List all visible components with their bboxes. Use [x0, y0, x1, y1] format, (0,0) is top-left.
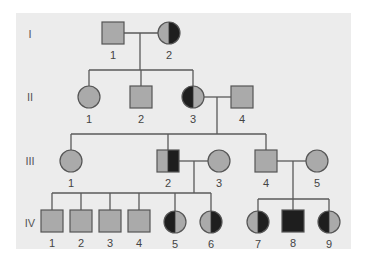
female-circle-symbol: [305, 149, 329, 173]
individual-number: 1: [49, 237, 55, 249]
individual-ii-3: 3: [181, 85, 205, 125]
individual-number: 6: [208, 238, 214, 250]
individual-iii-3: 3: [207, 149, 231, 189]
affected-half-right: [169, 21, 181, 45]
male-square-symbol: [127, 209, 151, 233]
individual-number: 8: [290, 237, 296, 249]
generation-label-iii: III: [25, 155, 34, 167]
generation-label-i: I: [28, 28, 31, 40]
individual-iv-3: 3: [98, 209, 122, 249]
individual-iii-1: 1: [59, 149, 83, 189]
individual-ii-4: 4: [230, 85, 254, 125]
female-circle-symbol: [59, 149, 83, 173]
individual-number: 2: [78, 237, 84, 249]
individual-iv-7: 7: [246, 210, 270, 250]
individual-number: 7: [255, 238, 261, 250]
individual-i-1: 1: [101, 21, 125, 61]
individual-i-2: 2: [157, 21, 181, 61]
individual-number: 1: [86, 113, 92, 125]
individual-iv-1: 1: [40, 209, 64, 249]
male-square-symbol: [129, 85, 153, 109]
male-square-symbol: [69, 209, 93, 233]
male-square-symbol: [254, 149, 278, 173]
individual-iii-2: 2: [156, 149, 180, 189]
individual-iv-5: 5: [163, 210, 187, 250]
individual-iv-6: 6: [199, 210, 223, 250]
individual-number: 1: [110, 49, 116, 61]
male-square-symbol: [40, 209, 64, 233]
individual-number: 4: [136, 237, 142, 249]
individual-iv-9: 9: [317, 210, 341, 250]
individual-ii-2: 2: [129, 85, 153, 125]
individual-number: 2: [138, 113, 144, 125]
male-square-symbol: [281, 209, 305, 233]
affected-half-right: [258, 210, 270, 234]
male-square-symbol: [230, 85, 254, 109]
individual-iv-2: 2: [69, 209, 93, 249]
individual-iv-4: 4: [127, 209, 151, 249]
affected-half-left: [163, 210, 175, 234]
individual-number: 3: [190, 113, 196, 125]
individual-number: 2: [165, 177, 171, 189]
female-circle-symbol: [77, 85, 101, 109]
generation-labels: IIIIIIIV: [25, 28, 36, 229]
individual-number: 5: [172, 238, 178, 250]
affected-half-left: [317, 210, 329, 234]
female-circle-symbol: [207, 149, 231, 173]
individuals: 12123412345123456789: [40, 21, 341, 250]
male-square-symbol: [98, 209, 122, 233]
individual-iv-8: 8: [281, 209, 305, 249]
individual-number: 4: [239, 113, 245, 125]
individual-iii-5: 5: [305, 149, 329, 189]
affected-half-left: [181, 85, 193, 109]
generation-label-iv: IV: [25, 217, 36, 229]
individual-number: 3: [107, 237, 113, 249]
individual-number: 4: [263, 177, 269, 189]
individual-number: 3: [216, 177, 222, 189]
pedigree-chart: IIIIIIIV 12123412345123456789: [0, 0, 369, 261]
individual-ii-1: 1: [77, 85, 101, 125]
individual-number: 5: [314, 177, 320, 189]
affected-half-right: [168, 149, 180, 173]
generation-label-ii: II: [27, 91, 33, 103]
individual-number: 9: [326, 238, 332, 250]
individual-iii-4: 4: [254, 149, 278, 189]
male-square-symbol: [101, 21, 125, 45]
individual-number: 1: [68, 177, 74, 189]
affected-half-right: [211, 210, 223, 234]
individual-number: 2: [166, 49, 172, 61]
